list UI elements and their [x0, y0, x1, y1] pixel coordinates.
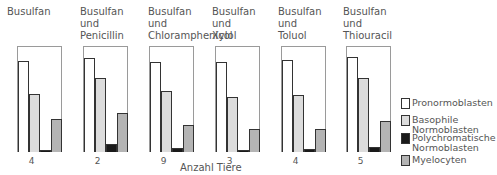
panel-title: Busulfan und Thiouracil [343, 6, 392, 42]
bar-basophile-normoblasten [95, 78, 106, 152]
legend-item: Pronormoblasten [401, 98, 493, 109]
panel-box [346, 46, 391, 152]
legend-label: Polychromatische Normoblasten [412, 133, 496, 153]
legend-swatch-icon [401, 133, 410, 144]
bar-polychromatische-normoblasten [238, 150, 249, 152]
bar-myelocyten [380, 121, 391, 152]
animal-count: 4 [273, 156, 318, 166]
bar-basophile-normoblasten [227, 97, 238, 152]
animal-count: 2 [75, 156, 120, 166]
bar-myelocyten [183, 125, 194, 152]
bar-polychromatische-normoblasten [369, 147, 380, 152]
bar-polychromatische-normoblasten [304, 149, 315, 152]
bar-basophile-normoblasten [161, 91, 172, 152]
legend-swatch-icon [401, 98, 410, 109]
panel-box [149, 46, 194, 152]
bar-basophile-normoblasten [358, 78, 369, 152]
panel-title: Busulfan und Penicillin [80, 6, 124, 42]
bar-pronormoblasten [18, 61, 29, 152]
animal-count: 4 [9, 156, 54, 166]
bar-myelocyten [117, 113, 128, 152]
panel-box [17, 46, 62, 152]
bar-pronormoblasten [282, 60, 293, 152]
panel-title: Busulfan und Toluol [278, 6, 322, 42]
legend-label: Myelocyten [412, 155, 467, 165]
bar-myelocyten [51, 119, 62, 152]
bar-pronormoblasten [150, 62, 161, 152]
bar-pronormoblasten [84, 58, 95, 152]
bar-polychromatische-normoblasten [40, 150, 51, 152]
bar-myelocyten [249, 129, 260, 152]
panel-title: Busulfan und Xylol [212, 6, 256, 42]
bar-pronormoblasten [216, 62, 227, 152]
bar-basophile-normoblasten [293, 95, 304, 152]
bar-polychromatische-normoblasten [106, 144, 117, 152]
legend-item: Polychromatische Normoblasten [401, 133, 496, 153]
animal-count: 5 [338, 156, 383, 166]
panel-box [281, 46, 326, 152]
bar-pronormoblasten [347, 57, 358, 152]
legend-label: Pronormoblasten [412, 98, 493, 108]
bar-myelocyten [315, 129, 326, 152]
panel-box [215, 46, 260, 152]
panel-box [83, 46, 128, 152]
x-axis-label: Anzahl Tiere [180, 162, 242, 173]
legend-item: Myelocyten [401, 155, 467, 166]
legend-swatch-icon [401, 115, 410, 126]
bar-basophile-normoblasten [29, 94, 40, 152]
legend-swatch-icon [401, 155, 410, 166]
panel-title: Busulfan [7, 6, 51, 18]
bar-polychromatische-normoblasten [172, 148, 183, 152]
